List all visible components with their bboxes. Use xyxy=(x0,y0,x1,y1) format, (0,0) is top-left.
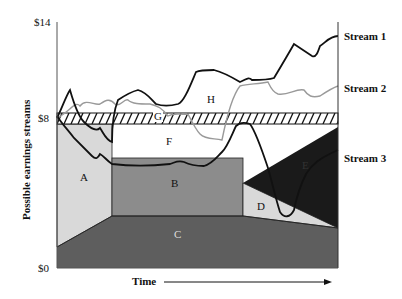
region-e-label: E xyxy=(302,159,309,171)
earnings-diagram xyxy=(0,0,402,299)
time-arrow-head-icon xyxy=(324,279,332,285)
x-axis-title: Time xyxy=(132,275,156,287)
region-d-label: D xyxy=(257,200,265,212)
legend-stream-2: Stream 2 xyxy=(344,82,386,94)
region-g-band xyxy=(57,113,338,124)
y-tick-8: $8 xyxy=(38,112,49,124)
region-a-label: A xyxy=(80,171,88,183)
region-c xyxy=(57,216,338,268)
y-tick-0: $0 xyxy=(38,262,49,274)
region-c-label: C xyxy=(174,228,181,240)
y-axis-title: Possible earnings streams xyxy=(20,100,32,220)
region-h-label: H xyxy=(207,93,215,105)
y-tick-14: $14 xyxy=(34,16,51,28)
legend-stream-1: Stream 1 xyxy=(344,30,386,42)
region-b-label: B xyxy=(171,177,178,189)
region-g-label: G xyxy=(153,111,163,122)
legend-stream-3: Stream 3 xyxy=(344,152,386,164)
region-f-label: F xyxy=(166,135,172,147)
